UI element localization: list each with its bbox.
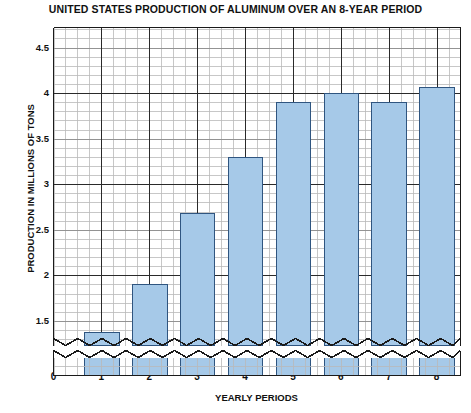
- bar: [420, 88, 455, 346]
- plot-area: [0, 0, 471, 413]
- bar: [181, 214, 215, 346]
- bar: [133, 285, 168, 346]
- bar: [372, 103, 407, 346]
- bar: [277, 103, 311, 346]
- bar: [229, 158, 263, 346]
- bar: [325, 94, 359, 346]
- chart-figure: UNITED STATES PRODUCTION OF ALUMINUM OVE…: [0, 0, 471, 413]
